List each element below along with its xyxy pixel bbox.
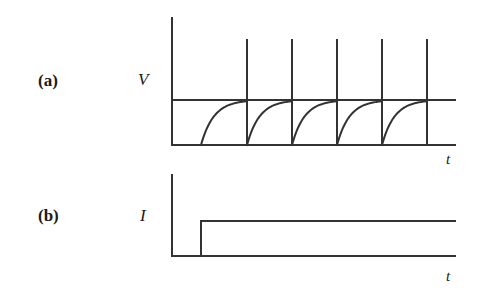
figure-container: (a) V t (b) I t (0, 0, 477, 294)
voltage-charging-curve (201, 101, 247, 145)
voltage-charging-curves (201, 101, 427, 145)
panel-b-plot (172, 175, 455, 256)
waveform-plot (0, 0, 477, 294)
voltage-charging-curve (247, 101, 292, 145)
panel-a-plot (172, 18, 455, 145)
voltage-charging-curve (337, 101, 382, 145)
voltage-charging-curve (292, 101, 337, 145)
voltage-spikes (247, 40, 427, 145)
current-step-trace (172, 221, 455, 256)
voltage-charging-curve (382, 101, 427, 145)
